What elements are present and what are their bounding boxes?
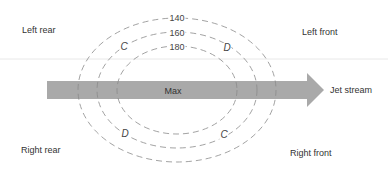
marker-lower-left: D xyxy=(120,129,129,139)
quadrant-right-front: Right front xyxy=(290,149,332,158)
quadrant-left-rear: Left rear xyxy=(22,26,56,35)
marker-lower-right: C xyxy=(219,130,228,140)
isotach-label-140: 140 xyxy=(168,14,185,23)
marker-upper-right: D xyxy=(222,43,231,53)
marker-upper-left: C xyxy=(119,42,128,52)
quadrant-right-rear: Right rear xyxy=(21,146,61,155)
isotach-label-160: 160 xyxy=(168,29,185,38)
jet-streak-diagram: 140 160 180 C D D C Max Left rear Left f… xyxy=(0,0,388,175)
jet-core-label: Max xyxy=(164,87,181,96)
jet-stream-label: Jet stream xyxy=(330,86,372,95)
jet-stream-arrow xyxy=(47,73,324,107)
quadrant-left-front: Left front xyxy=(302,28,338,37)
isotach-label-180: 180 xyxy=(168,43,185,52)
